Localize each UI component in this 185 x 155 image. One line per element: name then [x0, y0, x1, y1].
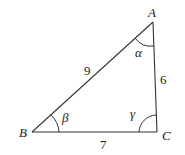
angle-label-alpha: α: [135, 45, 143, 60]
angle-arc-b: [51, 115, 59, 132]
vertex-label-a: A: [147, 5, 156, 20]
angle-arc-c: [139, 115, 156, 132]
vertex-label-b: B: [19, 125, 27, 140]
side-label-bc: 7: [100, 137, 107, 152]
side-label-ac: 6: [160, 72, 167, 87]
angle-label-beta: β: [61, 110, 69, 125]
angle-label-gamma: γ: [130, 106, 136, 121]
vertex-label-c: C: [162, 128, 171, 143]
side-label-ab: 9: [84, 63, 91, 78]
triangle-diagram: A B C 9 6 7 α β γ: [0, 0, 185, 155]
